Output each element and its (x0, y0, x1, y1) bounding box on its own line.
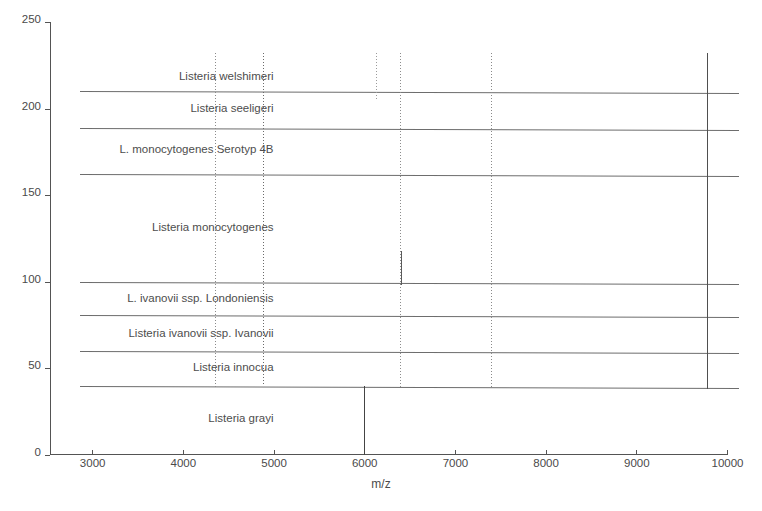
peak-line-9780 (707, 53, 708, 389)
x-tick-5000: 5000 (274, 450, 275, 455)
peak-line-6400 (401, 251, 402, 286)
species-label-5: Listeria ivanovii ssp. Ivanovii (128, 328, 273, 340)
x-tick-7000: 7000 (455, 450, 456, 455)
y-tick-50: 50 (45, 368, 50, 369)
y-tick-0: 0 (45, 455, 50, 456)
species-label-6: Listeria innocua (193, 363, 274, 375)
y-tick-label: 250 (22, 14, 41, 26)
x-tick-3000: 3000 (92, 450, 93, 455)
y-axis-line (50, 22, 51, 455)
peak-line-6000 (364, 386, 365, 455)
y-tick-200: 200 (45, 109, 50, 110)
species-label-4: L. ivanovii ssp. Londoniensis (127, 293, 273, 305)
x-tick-8000: 8000 (546, 450, 547, 455)
y-tick-label: 0 (35, 447, 41, 459)
x-axis-title: m/z (371, 478, 390, 490)
y-tick-label: 50 (28, 360, 41, 372)
species-label-0: Listeria welshimeri (179, 72, 274, 84)
y-tick-label: 100 (22, 274, 41, 286)
x-tick-label: 7000 (443, 458, 469, 470)
species-label-7: Listeria grayi (208, 413, 273, 425)
species-label-2: L. monocytogenes Serotyp 4B (119, 144, 273, 156)
x-tick-label: 10000 (712, 458, 744, 470)
x-tick-label: 5000 (261, 458, 287, 470)
peak-line-6130 (376, 53, 377, 100)
y-tick-150: 150 (45, 195, 50, 196)
x-axis-line (50, 454, 727, 455)
band-separator-line (80, 386, 739, 389)
x-tick-label: 3000 (80, 458, 106, 470)
x-tick-label: 4000 (171, 458, 197, 470)
x-tick-4000: 4000 (183, 450, 184, 455)
mass-spectrum-gel-view-figure: 050100150200250 300040005000600070008000… (0, 0, 762, 511)
y-tick-label: 200 (22, 101, 41, 113)
y-tick-250: 250 (45, 22, 50, 23)
species-label-3: Listeria monocytogenes (152, 222, 273, 234)
species-label-1: Listeria seeligeri (190, 103, 273, 115)
x-tick-9000: 9000 (636, 450, 637, 455)
band-separator-line (80, 128, 739, 131)
y-tick-100: 100 (45, 282, 50, 283)
band-separator-line (80, 351, 739, 354)
x-tick-10000: 10000 (727, 450, 728, 455)
plot-area: 050100150200250 300040005000600070008000… (50, 22, 727, 455)
peak-line-7400 (491, 53, 492, 389)
band-separator-line (80, 91, 739, 94)
band-separator-line (80, 282, 739, 285)
x-tick-label: 6000 (352, 458, 378, 470)
peak-line-6390 (400, 53, 401, 389)
x-tick-label: 8000 (533, 458, 559, 470)
band-separator-line (80, 174, 739, 177)
band-separator-line (80, 315, 739, 318)
y-tick-label: 150 (22, 187, 41, 199)
x-tick-label: 9000 (624, 458, 650, 470)
